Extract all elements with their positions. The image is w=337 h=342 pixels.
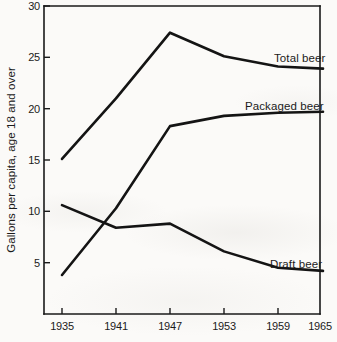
y-tick-label-10: 10	[28, 205, 40, 217]
x-tick-label-1935: 1935	[50, 320, 74, 332]
y-tick-label-30: 30	[28, 0, 40, 12]
x-tick-label-1965: 1965	[308, 320, 332, 332]
series-label-draft-beer: Draft beer	[270, 258, 322, 270]
y-tick-label-25: 25	[28, 51, 40, 63]
y-tick-label-5: 5	[34, 257, 40, 269]
beer-consumption-line-chart: 30 25 20 15 10 5 1935 1941 1947 1953 195…	[0, 0, 337, 342]
series-label-packaged-beer: Packaged beer	[245, 100, 324, 112]
y-tick-label-20: 20	[28, 103, 40, 115]
y-axis-ticks	[44, 6, 50, 263]
chart-figure: 30 25 20 15 10 5 1935 1941 1947 1953 195…	[0, 0, 337, 342]
x-tick-label-1959: 1959	[266, 320, 290, 332]
series-label-total-beer: Total beer	[274, 52, 326, 64]
x-tick-label-1953: 1953	[212, 320, 236, 332]
series-line-packaged-beer	[62, 112, 323, 275]
y-tick-label-15: 15	[28, 154, 40, 166]
x-tick-label-1947: 1947	[158, 320, 182, 332]
x-tick-label-1941: 1941	[104, 320, 128, 332]
x-axis-ticks	[62, 308, 278, 314]
y-axis-title: Gallons per capita, age 18 and over	[5, 67, 17, 253]
